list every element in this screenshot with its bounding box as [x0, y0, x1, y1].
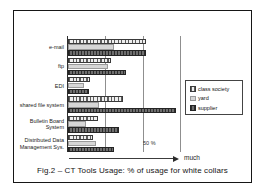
legend-swatch-icon [190, 105, 196, 111]
bar-supplier-3 [68, 108, 177, 113]
bar-supplier-2 [68, 89, 89, 94]
bar-yard-5 [68, 141, 97, 146]
category-label: Distributed Data Management Sys. [17, 137, 64, 150]
bar-supplier-0 [68, 50, 147, 55]
category-label: Bulletin Board System [17, 118, 64, 131]
x-axis-tick-label-50: 50 % [143, 140, 156, 146]
bar-yard-3 [68, 102, 100, 107]
bar-yard-1 [68, 64, 109, 69]
chart-legend: class societyyardsupplier [185, 80, 243, 115]
bar-class-society-1 [68, 58, 112, 63]
legend-item: supplier [190, 103, 242, 113]
figure-caption: Fig.2 – CT Tools Usage: % of usage for w… [14, 166, 251, 175]
legend-label: class society [198, 86, 229, 92]
arrow-right-icon [173, 156, 179, 162]
legend-item: yard [190, 94, 242, 104]
gridline-75pct [180, 36, 181, 152]
bar-class-society-3 [68, 96, 124, 101]
figure: e-mailftpEDIshared file systemBulletin B… [0, 0, 263, 193]
bar-supplier-1 [68, 70, 127, 75]
category-label: e-mail [17, 44, 64, 50]
legend-label: supplier [198, 105, 217, 111]
bar-yard-4 [68, 121, 86, 126]
bar-class-society-2 [68, 77, 91, 82]
bar-class-society-4 [68, 116, 98, 121]
bar-class-society-5 [68, 135, 94, 140]
bar-yard-2 [68, 83, 85, 88]
bar-supplier-4 [68, 127, 119, 132]
category-label: EDI [17, 82, 64, 88]
legend-swatch-icon [190, 96, 196, 102]
legend-swatch-icon [190, 86, 196, 92]
legend-label: yard [198, 95, 209, 101]
legend-item: class society [190, 84, 242, 94]
bar-class-society-0 [68, 39, 147, 44]
bar-yard-0 [68, 44, 115, 49]
x-axis-arrow-line [69, 158, 174, 159]
bar-supplier-5 [68, 147, 115, 152]
figure-frame: e-mailftpEDIshared file systemBulletin B… [13, 10, 252, 183]
x-axis-much-label: much [184, 154, 200, 161]
category-label: shared file system [17, 102, 64, 108]
category-label: ftp [17, 63, 64, 69]
